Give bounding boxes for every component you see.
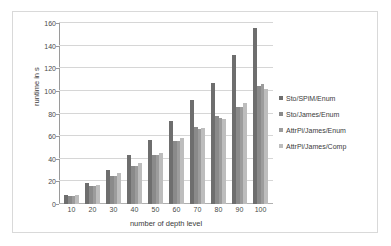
legend-label: Sto/SPiM/Enum: [286, 95, 335, 102]
bar: [75, 195, 79, 204]
y-axis-tick-mark: [56, 204, 59, 205]
legend-item: Sto/SPiM/Enum: [279, 90, 377, 106]
x-axis-tick-label: 30: [103, 206, 124, 213]
x-axis-tick-label: 20: [82, 206, 103, 213]
y-axis-tick-labels: 020406080100120140160: [27, 23, 56, 204]
legend-label: AttrPi/James/Enum: [286, 127, 346, 134]
x-axis-tick-label: 80: [208, 206, 229, 213]
y-axis-tick-label: 120: [30, 65, 56, 72]
y-axis-tick-mark: [56, 114, 59, 115]
x-axis-tick-label: 90: [229, 206, 250, 213]
x-axis-tick-label: 100: [250, 206, 271, 213]
y-axis-tick-mark: [56, 23, 59, 24]
legend-item: AttrPi/James/Enum: [279, 122, 377, 138]
plot-area: [59, 23, 273, 204]
bar: [201, 128, 205, 204]
bar-series-container: [59, 23, 273, 204]
bar-group: [103, 23, 124, 204]
y-axis-tick-label: 0: [30, 201, 56, 208]
y-axis-tick-mark: [56, 136, 59, 137]
bar: [243, 103, 247, 204]
bar-group: [82, 23, 103, 204]
x-axis-tick-label: 60: [166, 206, 187, 213]
x-axis-tick-label: 40: [124, 206, 145, 213]
legend-swatch-icon: [279, 112, 283, 116]
y-axis-tick-label: 80: [30, 110, 56, 117]
bar: [264, 89, 268, 204]
y-axis-tick-label: 60: [30, 133, 56, 140]
y-axis-tick-mark: [56, 159, 59, 160]
legend-swatch-icon: [279, 144, 283, 148]
bar-group: [187, 23, 208, 204]
x-axis-tick-label: 10: [61, 206, 82, 213]
bar-group: [61, 23, 82, 204]
bar: [159, 153, 163, 204]
bar-group: [250, 23, 271, 204]
x-axis-tick-labels: 102030405060708090100: [59, 206, 273, 213]
legend-item: AttrPi/James/Comp: [279, 138, 377, 154]
x-axis-title: number of depth level: [59, 219, 273, 228]
bar-group: [145, 23, 166, 204]
legend-label: Sto/James/Enum: [286, 111, 339, 118]
y-axis-tick-mark: [56, 68, 59, 69]
y-axis-tick-mark: [56, 46, 59, 47]
bar: [138, 163, 142, 204]
y-axis-tick-mark: [56, 91, 59, 92]
y-axis-tick-label: 40: [30, 155, 56, 162]
y-axis-tick-mark: [56, 181, 59, 182]
y-axis-tick-label: 160: [30, 20, 56, 27]
legend-label: AttrPi/James/Comp: [286, 143, 346, 150]
legend-swatch-icon: [279, 96, 283, 100]
bar-group: [166, 23, 187, 204]
chart-container: runtime in s 020406080100120140160 10203…: [12, 11, 378, 233]
bar: [222, 119, 226, 204]
bar: [96, 185, 100, 204]
y-axis-tick-label: 100: [30, 87, 56, 94]
y-axis-tick-label: 140: [30, 42, 56, 49]
bar-group: [229, 23, 250, 204]
bar-group: [124, 23, 145, 204]
legend-item: Sto/James/Enum: [279, 106, 377, 122]
legend-swatch-icon: [279, 128, 283, 132]
x-axis-tick-label: 70: [187, 206, 208, 213]
legend: Sto/SPiM/EnumSto/James/EnumAttrPi/James/…: [279, 90, 377, 154]
bar-group: [208, 23, 229, 204]
bar: [117, 173, 121, 204]
x-axis-tick-label: 50: [145, 206, 166, 213]
bar: [180, 138, 184, 204]
y-axis-tick-label: 20: [30, 178, 56, 185]
